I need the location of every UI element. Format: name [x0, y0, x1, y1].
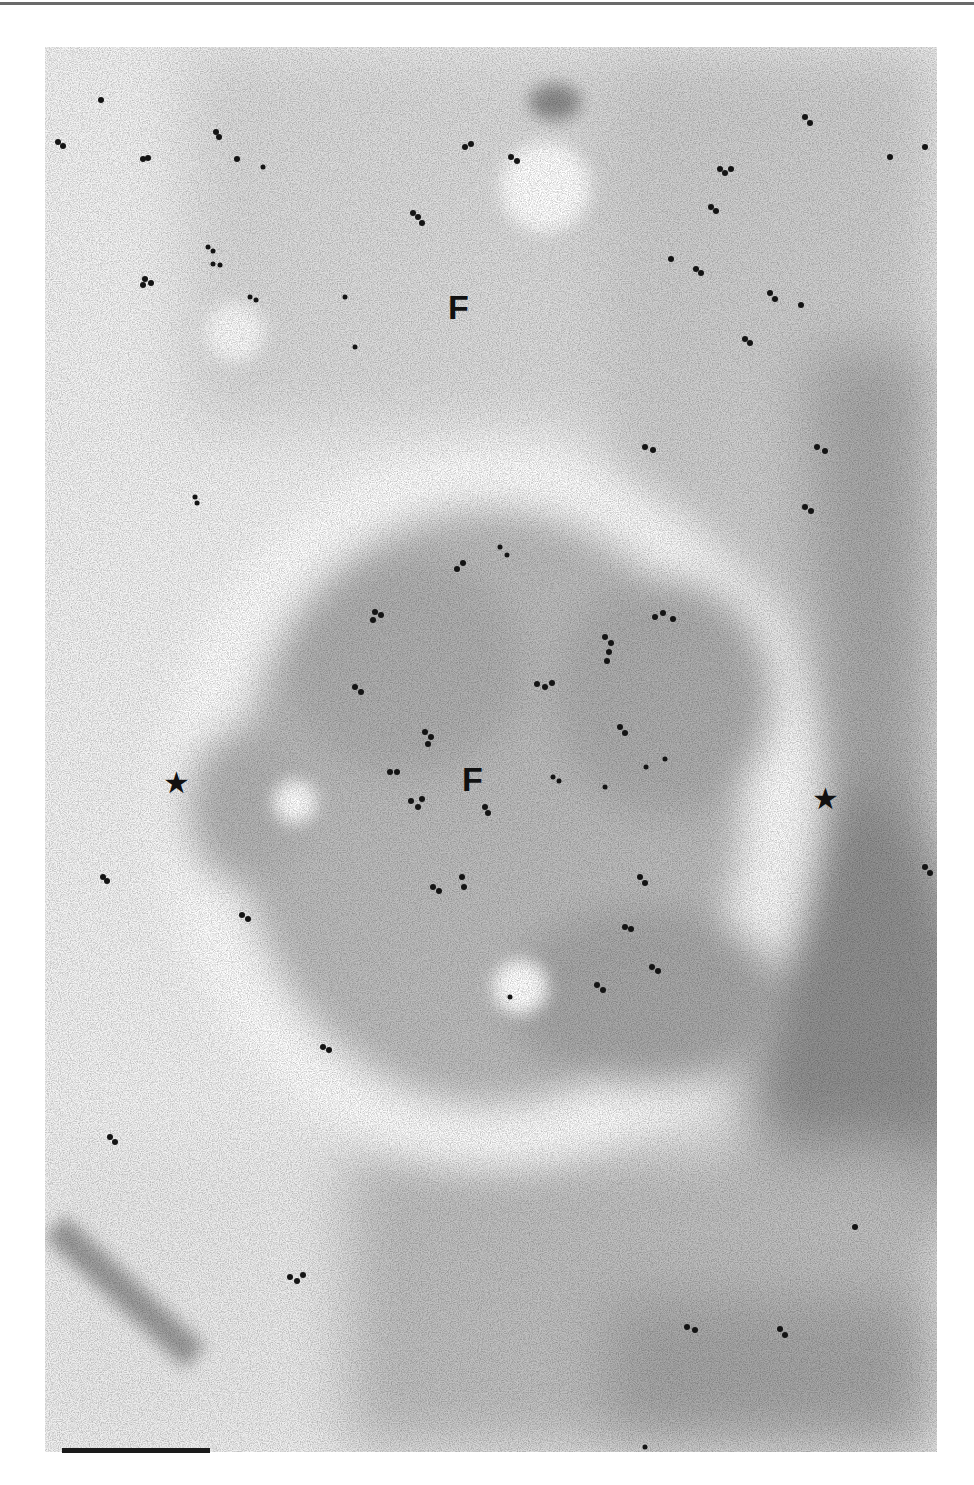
micrograph-texture: [45, 47, 937, 1452]
label-f-top: F: [448, 290, 469, 324]
star-marker-left: ★: [163, 768, 190, 798]
top-border-rule: [0, 2, 974, 5]
label-f-center: F: [462, 762, 483, 796]
star-marker-right: ★: [812, 784, 839, 814]
scale-bar: [62, 1448, 210, 1453]
electron-micrograph: F F ★ ★: [45, 47, 937, 1452]
